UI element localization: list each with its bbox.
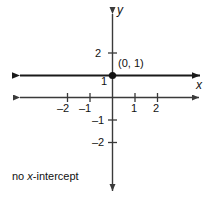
y-tick-label-neg2: –2 bbox=[92, 137, 104, 148]
caption-suffix: -intercept bbox=[33, 170, 79, 182]
x-tick-label-neg1: –1 bbox=[79, 103, 91, 114]
x-tick-label-neg2: –2 bbox=[57, 103, 69, 114]
data-point-0-1 bbox=[109, 72, 116, 79]
no-x-intercept-caption: no x-intercept bbox=[12, 170, 79, 182]
x-tick-label-1: 1 bbox=[131, 103, 137, 114]
coordinate-plane-figure: –2 –1 1 2 2 1 –1 –2 y x (0, 1) no x-inte… bbox=[0, 0, 219, 205]
caption-prefix: no bbox=[12, 170, 27, 182]
y-tick-label-2: 2 bbox=[95, 48, 101, 59]
data-point-label: (0, 1) bbox=[118, 58, 144, 69]
y-tick-label-1: 1 bbox=[101, 76, 107, 87]
x-axis-label: x bbox=[196, 79, 202, 91]
y-tick-label-neg1: –1 bbox=[92, 115, 104, 126]
y-axis-label: y bbox=[117, 4, 123, 16]
x-tick-label-2: 2 bbox=[153, 103, 159, 114]
